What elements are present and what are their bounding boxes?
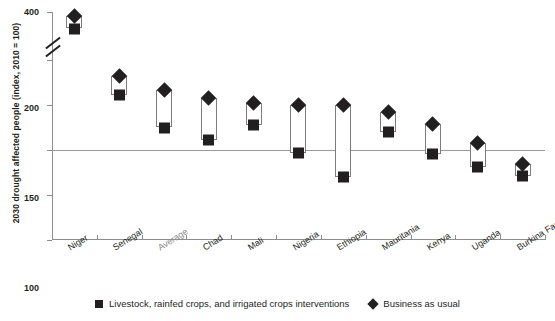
square-marker-interventions xyxy=(203,135,214,146)
square-marker-icon xyxy=(95,300,103,308)
data-group-burkina-faso xyxy=(500,12,545,240)
square-marker-interventions xyxy=(427,148,438,159)
legend-item-interventions: Livestock, rainfed crops, and irrigated … xyxy=(95,298,349,309)
data-group-mali xyxy=(231,12,276,240)
square-marker-interventions xyxy=(472,162,483,173)
diamond-marker-icon xyxy=(368,298,379,309)
square-marker-interventions xyxy=(383,127,394,138)
square-marker-interventions xyxy=(517,171,528,182)
legend-label-business-as-usual: Business as usual xyxy=(383,298,460,309)
square-marker-interventions xyxy=(293,147,304,158)
square-marker-interventions xyxy=(69,23,80,34)
data-group-nigeria xyxy=(276,12,321,240)
data-group-chad xyxy=(186,12,231,240)
y-axis-title: 2030 drought affected people (index, 201… xyxy=(11,3,21,243)
y-tick-label-150: 150 xyxy=(24,193,39,203)
square-marker-interventions xyxy=(248,119,259,130)
drought-affected-people-chart: 2030 drought affected people (index, 201… xyxy=(0,0,555,321)
data-group-ethiopia xyxy=(321,12,366,240)
data-group-average xyxy=(142,12,187,240)
y-tick-label-200: 200 xyxy=(24,103,39,113)
data-group-uganda xyxy=(455,12,500,240)
y-tick-label-100: 100 xyxy=(24,283,39,293)
legend-label-interventions: Livestock, rainfed crops, and irrigated … xyxy=(109,298,349,309)
plot-area: 050100150200400 xyxy=(52,12,545,240)
y-tick-0: 0 xyxy=(47,240,52,241)
range-bar xyxy=(335,105,351,177)
data-group-kenya xyxy=(411,12,456,240)
data-group-senegal xyxy=(97,12,142,240)
data-group-mauritania xyxy=(366,12,411,240)
square-marker-interventions xyxy=(159,122,170,133)
legend-item-business-as-usual: Business as usual xyxy=(369,298,460,309)
chart-legend: Livestock, rainfed crops, and irrigated … xyxy=(0,298,555,309)
data-group-niger xyxy=(52,12,97,240)
y-tick-label-400: 400 xyxy=(24,7,39,17)
square-marker-interventions xyxy=(338,172,349,183)
square-marker-interventions xyxy=(114,90,125,101)
